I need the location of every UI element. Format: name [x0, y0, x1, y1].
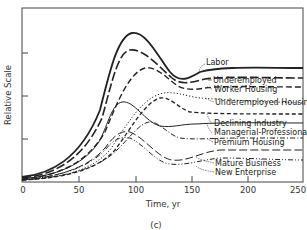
legend-label-declining-industry: Declining Industry: [214, 119, 287, 128]
y-axis-title: Relative Scale: [3, 65, 13, 125]
line-chart: Labor Underemployed Worker Housing Under…: [0, 0, 307, 230]
x-tick-labels: 0 50 100 150 200 250: [20, 185, 306, 195]
panel-label: (c): [150, 220, 161, 230]
y-ticks: [22, 53, 28, 139]
legend-label-labor: Labor: [206, 58, 229, 67]
svg-text:150: 150: [184, 185, 200, 195]
svg-text:0: 0: [20, 185, 25, 195]
legend-label-mature-business: Mature Business: [215, 159, 281, 168]
svg-text:250: 250: [290, 185, 306, 195]
svg-text:200: 200: [240, 185, 256, 195]
x-axis-title: Time, yr: [145, 199, 181, 209]
svg-text:100: 100: [128, 185, 144, 195]
svg-text:50: 50: [74, 185, 85, 195]
legend-label-underemployed-housing: Underemployed Housing: [215, 98, 307, 107]
legend-label-underemployed: Underemployed: [213, 76, 277, 85]
legend-label-managerial-professional: Managerial-Professional: [214, 128, 307, 137]
legend-label-new-enterprise: New Enterprise: [215, 168, 276, 177]
legend-label-premium-housing: Premium Housing: [214, 138, 285, 147]
legend-label-worker-housing: Worker Housing: [214, 85, 277, 94]
plot-frame: [22, 8, 303, 182]
